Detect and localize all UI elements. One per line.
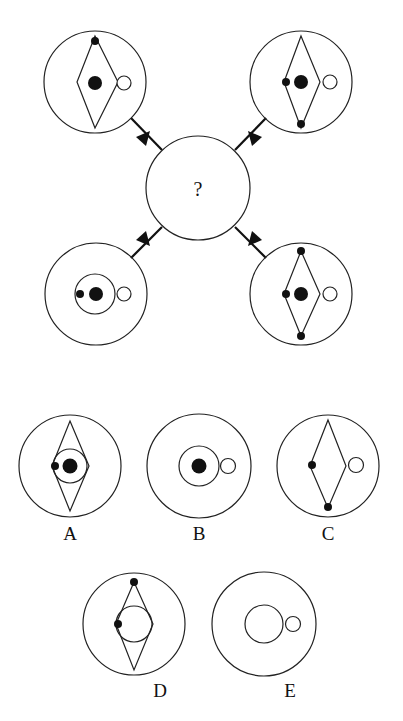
option-a[interactable]: A [19,415,121,544]
arrow-bottom-right-icon [235,227,266,258]
big-dot-icon [294,75,308,89]
option-label: B [193,523,206,544]
question-mark: ? [194,178,203,200]
figure-top-left [44,31,146,133]
figure-top-right [250,31,352,133]
small-dot-icon [91,37,99,45]
small-dot-icon [114,620,122,628]
option-d[interactable]: D [83,573,185,701]
hollow-circle-icon [117,287,131,301]
hollow-circle-icon [323,287,337,301]
hollow-circle-icon [221,459,236,474]
option-label: A [63,523,77,544]
small-dot-icon [76,290,84,298]
option-c[interactable]: C [277,415,379,544]
option-label: D [153,680,167,701]
center-question-figure: ? [146,136,250,240]
hollow-circle-icon [117,76,131,90]
big-dot-icon [89,287,103,301]
small-dot-icon [51,462,59,470]
small-dot-icon [130,578,138,586]
big-dot-icon [294,287,308,301]
hollow-circle-icon [349,458,364,473]
hollow-circle-icon [323,75,337,89]
option-b[interactable]: B [147,414,251,544]
figure-bottom-right [250,243,352,345]
small-dot-icon [297,247,305,255]
arrow-bottom-left-icon [131,227,162,258]
arrow-top-right-icon [235,118,266,150]
big-dot-icon [88,76,102,90]
arrow-top-left-icon [131,118,162,150]
figure-bottom-left [45,243,147,345]
hollow-circle-icon [286,617,301,632]
option-e[interactable]: E [212,572,316,701]
small-dot-icon [282,78,290,86]
small-dot-icon [308,461,316,469]
small-dot-icon [297,120,305,128]
option-label: C [322,523,335,544]
small-dot-icon [324,503,332,511]
puzzle-diagram: ? A [0,0,403,721]
small-dot-icon [297,332,305,340]
big-dot-icon [192,459,207,474]
option-label: E [284,680,296,701]
small-dot-icon [282,290,290,298]
big-dot-icon [63,459,78,474]
